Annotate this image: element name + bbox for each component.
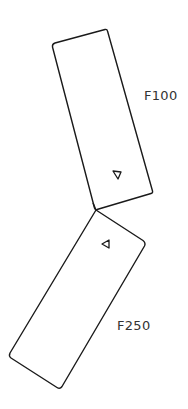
f250-orientation-triangle-icon [102,240,109,248]
label-f250: F250 [117,318,151,333]
diagram-canvas [0,0,188,409]
label-f100: F100 [144,88,178,103]
f100-orientation-triangle-icon [113,171,121,179]
f250-outline [9,210,145,388]
part-f250 [9,210,145,388]
part-f100 [52,29,152,209]
f100-outline [52,29,152,209]
